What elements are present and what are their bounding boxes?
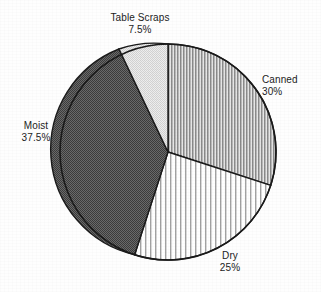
slice-label-moist: Moist 37.5%	[8, 120, 64, 144]
slice-label-table-scraps: Table Scraps 7.5%	[92, 12, 188, 36]
slice-label-canned-value: 30%	[262, 86, 318, 98]
slice-label-table-scraps-name: Table Scraps	[92, 12, 188, 24]
pie-chart-canvas	[0, 0, 321, 292]
slice-label-dry: Dry 25%	[206, 250, 254, 274]
pie-chart-figure: Table Scraps 7.5% Canned 30% Moist 37.5%…	[0, 0, 321, 292]
slice-label-canned-name: Canned	[262, 74, 318, 86]
slice-label-moist-name: Moist	[8, 120, 64, 132]
slice-label-moist-value: 37.5%	[8, 132, 64, 144]
slice-label-dry-name: Dry	[206, 250, 254, 262]
slice-label-canned: Canned 30%	[262, 74, 318, 98]
slice-label-dry-value: 25%	[206, 262, 254, 274]
slice-label-table-scraps-value: 7.5%	[92, 24, 188, 36]
